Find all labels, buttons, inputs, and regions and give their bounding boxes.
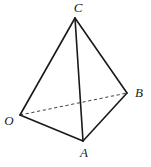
vertex-label-O: O: [4, 113, 14, 128]
edge-C-B: [75, 18, 127, 93]
edge-O-A: [20, 115, 83, 141]
tetrahedron-canvas: C O B A: [0, 0, 151, 167]
tetrahedron-figure: C O B A: [0, 0, 151, 167]
vertex-label-B: B: [135, 85, 143, 100]
vertex-label-C: C: [74, 0, 83, 15]
vertex-label-A: A: [79, 145, 88, 160]
edge-O-B-dashed: [20, 93, 127, 115]
edge-C-A: [75, 18, 83, 141]
edge-C-O: [20, 18, 75, 115]
